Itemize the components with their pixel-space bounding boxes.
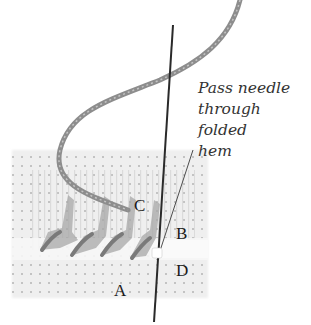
caption-line-3: hem [198,141,311,162]
caption-line-2: through folded [198,99,311,141]
label-d: D [176,262,188,279]
hem-fold-point [152,248,162,258]
instruction-caption: Pass needle through folded hem [198,78,311,162]
caption-line-1: Pass needle [198,78,311,99]
label-c: C [134,197,145,214]
illustration [0,0,311,325]
label-b: B [176,225,187,242]
hem-stitch-diagram: Pass needle through folded hem C B D A [0,0,311,325]
label-a: A [114,282,126,299]
